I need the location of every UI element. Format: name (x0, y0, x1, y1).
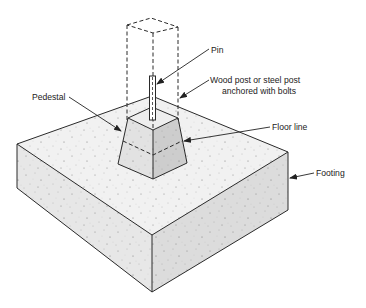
label-post-line1: Wood post or steel post (210, 75, 301, 85)
label-floor-line: Floor line (272, 122, 308, 132)
footing-diagram: Pin Wood post or steel post anchored wit… (0, 0, 366, 308)
pin (150, 76, 156, 120)
label-pin: Pin (211, 45, 224, 55)
post-arrow (180, 80, 209, 98)
label-post-line2: anchored with bolts (222, 86, 296, 96)
label-pedestal: Pedestal (32, 92, 66, 102)
label-footing: Footing (316, 168, 345, 178)
footing-arrow (290, 173, 314, 178)
pin-arrow (157, 49, 209, 84)
